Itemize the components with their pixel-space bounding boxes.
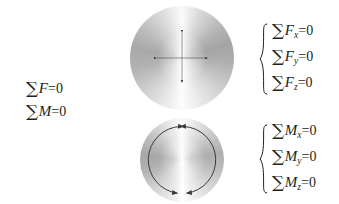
summation-icon: ∑	[26, 101, 38, 121]
equation-variable: M	[285, 174, 298, 190]
general-equilibrium-equations: ∑F=0 ∑M=0	[26, 77, 116, 123]
equation-sum-mx: ∑Mx=0	[272, 120, 316, 146]
moment-arcs	[140, 118, 224, 202]
moment-sphere	[140, 118, 224, 202]
equation-relation: =0	[51, 104, 66, 119]
equation-sum-fx: ∑Fx=0	[272, 20, 313, 46]
equation-sum-f: ∑F=0	[26, 77, 116, 100]
summation-icon: ∑	[272, 120, 284, 140]
arc-right	[184, 127, 216, 194]
equation-relation: =0	[298, 49, 313, 64]
equation-variable: F	[285, 74, 294, 90]
arc-left	[148, 127, 180, 194]
force-equation-list: ∑Fx=0 ∑Fy=0 ∑Fz=0	[272, 20, 313, 98]
summation-icon: ∑	[26, 78, 38, 98]
equation-variable: M	[39, 103, 52, 119]
equation-relation: =0	[302, 149, 317, 164]
equation-sum-mz: ∑Mz=0	[272, 172, 316, 198]
equation-variable: F	[285, 48, 294, 64]
curly-brace-icon	[258, 124, 269, 194]
equation-sum-my: ∑My=0	[272, 146, 316, 172]
summation-icon: ∑	[272, 172, 284, 192]
force-component-equations: ∑Fx=0 ∑Fy=0 ∑Fz=0	[258, 23, 313, 95]
equation-variable: F	[285, 22, 294, 38]
equation-relation: =0	[302, 123, 317, 138]
force-sphere	[130, 6, 234, 110]
equilibrium-diagram: ∑F=0 ∑M=0	[0, 0, 339, 204]
equation-sum-m: ∑M=0	[26, 100, 116, 123]
summation-icon: ∑	[272, 20, 284, 40]
equation-relation: =0	[48, 81, 63, 96]
force-arrows	[130, 6, 234, 110]
summation-icon: ∑	[272, 72, 284, 92]
moment-component-equations: ∑Mx=0 ∑My=0 ∑Mz=0	[258, 124, 316, 194]
summation-icon: ∑	[272, 46, 284, 66]
equation-variable: M	[285, 122, 298, 138]
equation-relation: =0	[298, 23, 313, 38]
equation-relation: =0	[298, 75, 313, 90]
equation-relation: =0	[301, 175, 316, 190]
moment-equation-list: ∑Mx=0 ∑My=0 ∑Mz=0	[272, 120, 316, 198]
curly-brace-icon	[258, 23, 269, 95]
equation-variable: F	[39, 80, 48, 96]
summation-icon: ∑	[272, 146, 284, 166]
equation-sum-fz: ∑Fz=0	[272, 72, 313, 98]
equation-variable: M	[285, 148, 298, 164]
equation-sum-fy: ∑Fy=0	[272, 46, 313, 72]
